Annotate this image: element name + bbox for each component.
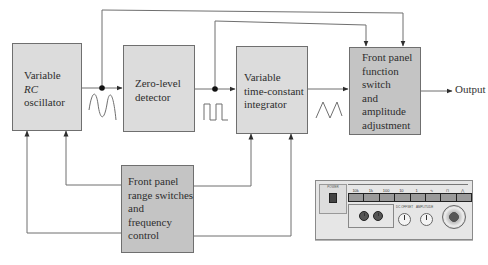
output-knob-1: [359, 211, 369, 221]
output-label: Output: [455, 83, 486, 95]
square-waveform-icon: [204, 104, 228, 120]
block-label-line: oscillator: [24, 96, 65, 110]
block-label-line: frequency: [128, 216, 193, 230]
power-toggle-icon: [329, 193, 337, 203]
block-variable-time-constant-integrator: Variable time-constant integrator: [236, 46, 308, 134]
block-label-line: range switches: [128, 189, 193, 203]
power-switch: POWER: [319, 184, 347, 214]
block-front-panel-function-switch: Front panel function switch and amplitud…: [349, 47, 421, 135]
block-label-line: Front panel: [128, 175, 193, 189]
dc-offset-label: DC OFFSET: [396, 205, 413, 209]
block-label-line: Variable: [244, 71, 304, 85]
junction-node-osc: [99, 85, 105, 91]
amplitude-knob: [420, 213, 433, 226]
block-label-line: Front panel: [362, 51, 412, 65]
block-label-line: switch: [362, 78, 412, 92]
block-label-line: detector: [135, 91, 181, 105]
block-label-line: and: [362, 92, 412, 106]
block-label-line: integrator: [244, 98, 304, 112]
amplitude-label: AMPLITUDE: [416, 205, 433, 209]
block-label-line: control: [128, 229, 193, 243]
block-label-line: time-constant: [244, 85, 304, 99]
output-group: [348, 204, 394, 228]
triangle-waveform-icon: [316, 102, 342, 118]
output-knob-2: [373, 211, 383, 221]
function-generator-front-panel-photo: POWER 10k 1k 100 10 1 ∿ ⊓ ⋀ DC OFFSET AM…: [315, 180, 473, 240]
block-variable-rc-oscillator: Variable RC oscillator: [12, 43, 82, 131]
block-label-line: adjustment: [362, 119, 412, 133]
block-label-line: RC: [24, 83, 65, 97]
frequency-dial: [442, 205, 466, 229]
range-button-row: [348, 193, 472, 202]
block-label-line: Variable: [24, 69, 65, 83]
block-zero-level-detector: Zero-level detector: [123, 45, 195, 132]
sine-waveform-icon: [89, 94, 116, 120]
dc-offset-knob: [398, 213, 411, 226]
block-label-line: amplitude: [362, 105, 412, 119]
junction-node-zld: [212, 86, 218, 92]
block-label-line: Zero-level: [135, 77, 181, 91]
block-label-line: function: [362, 65, 412, 79]
block-label-line: and: [128, 202, 193, 216]
block-front-panel-range-switches: Front panel range switches and frequency…: [121, 165, 194, 253]
